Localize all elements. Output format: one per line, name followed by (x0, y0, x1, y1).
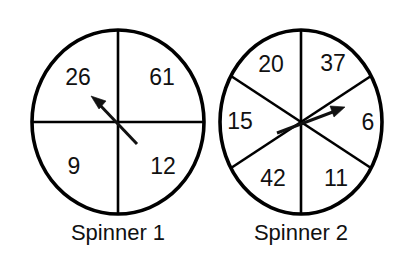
spinner-1-sector-value-lower-right: 12 (150, 153, 176, 179)
spinner-1-sector-value-upper-left: 26 (65, 64, 91, 90)
spinner-2-sector-value-bottom-left: 42 (260, 165, 286, 191)
spinner-2[interactable]: 20 37 15 6 42 11 Spinner 2 (220, 30, 382, 245)
spinner-2-sector-value-top-left: 20 (258, 51, 284, 77)
spinner-2-sector-value-right: 6 (362, 109, 375, 135)
spinner-2-sector-value-bottom-right: 11 (324, 165, 348, 191)
spinner-2-sector-value-top-right: 37 (320, 50, 346, 76)
spinner-1[interactable]: 26 61 9 12 Spinner 1 (32, 30, 204, 245)
spinner-1-sector-value-lower-left: 9 (68, 153, 81, 179)
spinners-figure: 26 61 9 12 Spinner 1 20 37 15 6 42 11 (0, 0, 399, 255)
spinners-canvas: 26 61 9 12 Spinner 1 20 37 15 6 42 11 (0, 0, 399, 255)
spinner-1-sector-value-upper-right: 61 (149, 64, 175, 90)
spinner-2-sector-value-left: 15 (227, 108, 253, 134)
spinner-2-caption: Spinner 2 (254, 220, 348, 245)
spinner-1-caption: Spinner 1 (71, 220, 165, 245)
